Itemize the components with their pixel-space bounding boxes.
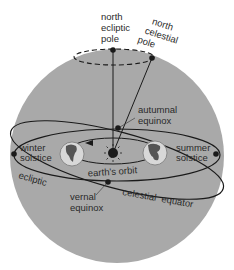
north-ecliptic-pole-point xyxy=(110,47,116,53)
celestial-sphere-diagram: north ecliptic pole north celestial pole… xyxy=(0,0,234,270)
summer-solstice-point xyxy=(213,151,219,157)
autumnal-equinox-point xyxy=(115,125,121,131)
north-ecliptic-pole-label: north ecliptic pole xyxy=(101,11,133,44)
winter-solstice-label: winter solstice xyxy=(19,142,52,163)
earth-globe-right-icon xyxy=(143,141,167,165)
vernal-equinox-label: vernal equinox xyxy=(70,191,104,213)
summer-solstice-label: summer solstice xyxy=(176,142,213,163)
earth-globe-left-icon xyxy=(60,142,84,166)
winter-solstice-point xyxy=(11,151,17,157)
vernal-equinox-point xyxy=(105,179,111,185)
north-celestial-pole-point xyxy=(149,55,155,61)
north-celestial-pole-label: north celestial pole xyxy=(136,13,185,57)
